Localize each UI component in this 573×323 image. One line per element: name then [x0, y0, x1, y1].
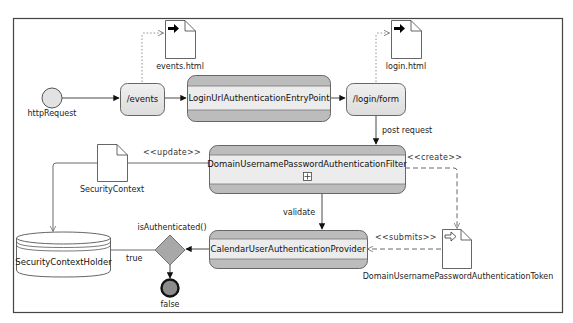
node-label-events-html: events.html: [156, 62, 204, 71]
node-label-http-request: httpRequest: [28, 109, 77, 118]
edge-label-create: <<create>>: [407, 153, 462, 162]
final-node-false[interactable]: false: [160, 280, 179, 310]
node-label-entry-point: LoginUrlAuthenticationEntryPoint: [188, 93, 330, 103]
node-label-filter: DomainUsernamePasswordAuthenticationFilt…: [207, 159, 407, 169]
action-authentication-filter[interactable]: DomainUsernamePasswordAuthenticationFilt…: [207, 146, 407, 194]
plus-box-icon[interactable]: [304, 173, 312, 181]
node-label-decision: isAuthenticated(): [137, 223, 206, 232]
node-label-events: /events: [127, 94, 159, 104]
file-arrow-icon: [166, 21, 196, 59]
node-label-false: false: [160, 300, 179, 309]
file-arrow-icon: [392, 21, 422, 59]
node-label-security-context: SecurityContext: [80, 185, 144, 194]
node-label-provider: CalendarUserAuthenticationProvider: [211, 244, 366, 254]
node-label-login-html: login.html: [386, 62, 426, 71]
edge-label-update: <<update>>: [143, 148, 201, 157]
action-calendar-auth-provider[interactable]: CalendarUserAuthenticationProvider: [210, 231, 368, 269]
action-events[interactable]: /events: [121, 84, 165, 116]
action-login-url-entry-point[interactable]: LoginUrlAuthenticationEntryPoint: [188, 76, 331, 122]
node-label-security-context-holder: SecurityContextHolder: [15, 257, 112, 267]
node-label-auth-token: DomainUsernamePasswordAuthenticationToke…: [363, 272, 554, 281]
edge-label-validate: validate: [283, 208, 315, 217]
edge-label-submits: <<submits>>: [375, 233, 437, 242]
activity-diagram: post request <<update>> <<create>> valid…: [0, 0, 573, 323]
action-login-form[interactable]: /login/form: [347, 84, 406, 116]
edge-label-post-request: post request: [382, 126, 432, 135]
datastore-security-context-holder[interactable]: SecurityContextHolder: [15, 232, 112, 277]
edge-label-true: true: [126, 254, 142, 263]
file-icon: [98, 145, 128, 182]
node-label-login-form: /login/form: [353, 94, 399, 104]
